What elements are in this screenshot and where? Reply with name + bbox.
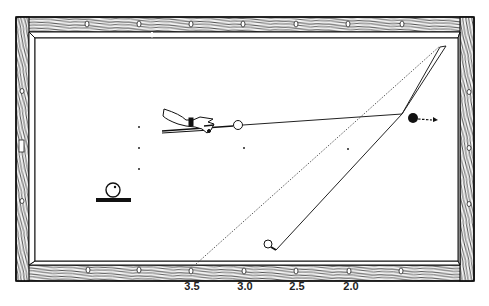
felt xyxy=(35,38,458,261)
cue-ball xyxy=(234,121,243,130)
object-ball xyxy=(408,113,418,123)
cue-ball-final xyxy=(264,240,272,248)
billiard-diagram xyxy=(0,0,489,306)
diamond-label-3.5: 3.5 xyxy=(184,280,199,292)
diamond-label-2.0: 2.0 xyxy=(343,280,358,292)
diamond-label-3.0: 3.0 xyxy=(237,280,252,292)
diamond-label-2.5: 2.5 xyxy=(289,280,304,292)
